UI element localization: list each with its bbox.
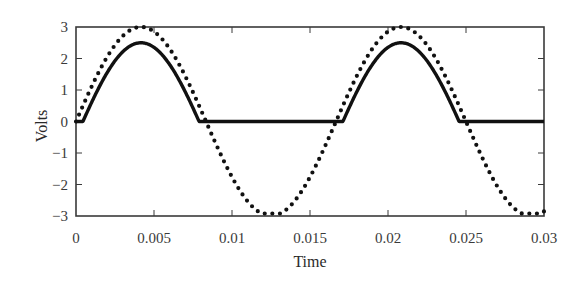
x-tick-label: 0.03 <box>531 230 557 246</box>
y-tick-label: 2 <box>61 51 69 67</box>
x-axis-tick-labels: 00.0050.010.0150.020.0250.03 <box>72 230 557 246</box>
y-tick-label: 0 <box>61 114 69 130</box>
output-rectified-solid-line <box>76 43 544 122</box>
y-tick-label: −1 <box>52 145 68 161</box>
x-tick-label: 0.015 <box>293 230 327 246</box>
x-tick-label: 0.025 <box>449 230 483 246</box>
x-axis-label: Time <box>293 253 326 270</box>
y-axis-label: Volts <box>33 110 50 143</box>
x-tick-label: 0.01 <box>219 230 245 246</box>
y-tick-label: 1 <box>61 82 69 98</box>
y-tick-label: −3 <box>52 208 68 224</box>
y-tick-label: 3 <box>61 19 69 35</box>
rectifier-waveform-chart: 00.0050.010.0150.020.0250.03 3210−1−2−3 … <box>0 0 576 284</box>
x-tick-label: 0 <box>72 230 80 246</box>
x-tick-label: 0.005 <box>137 230 171 246</box>
x-tick-label: 0.02 <box>375 230 401 246</box>
series-layer <box>76 27 544 213</box>
y-tick-label: −2 <box>52 177 68 193</box>
y-axis-tick-labels: 3210−1−2−3 <box>52 19 68 224</box>
